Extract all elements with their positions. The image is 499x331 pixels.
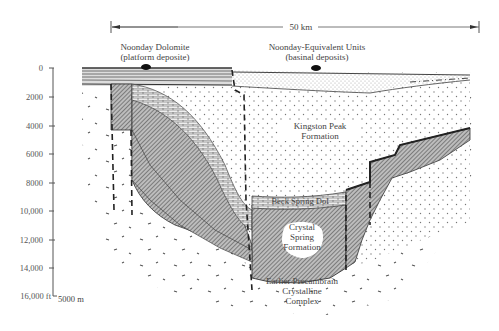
cross-section-diagram: [0, 0, 499, 331]
header-right-line1: Noonday-Equivalent Units: [262, 42, 372, 52]
depth-tick: 4000: [0, 121, 43, 131]
beck-spring-label: Beck Spring Dol: [262, 196, 338, 206]
crystal-spring-label-3: Formation: [276, 242, 328, 252]
depth-tick: 8000: [0, 178, 43, 188]
header-left-line2: (platform deposite): [105, 52, 205, 62]
noonday-marker-right: [311, 65, 321, 71]
depth-tick: 14,000: [0, 263, 43, 273]
metric-depth-label: 5000 m: [58, 294, 84, 304]
depth-tick: 2000: [0, 92, 43, 102]
header-left-line1: Noonday Dolomite: [105, 42, 205, 52]
depth-axis: [49, 68, 57, 296]
noonday-marker-left: [141, 64, 151, 70]
depth-tick: 16,000 ft: [0, 291, 51, 301]
kingston-peak-label-1: Kingston Peak: [280, 121, 360, 131]
depth-tick: 6000: [0, 149, 43, 159]
crystal-spring-label-2: Spring: [280, 232, 324, 242]
basement-label-1: Earlier Precambrain: [252, 276, 352, 286]
basement-label-2: Crystalline: [252, 286, 352, 296]
depth-tick: 0: [0, 63, 43, 73]
noonday-platform-layers: [82, 68, 232, 86]
scale-bar-label: 50 km: [281, 22, 321, 32]
kingston-peak-label-2: Formation: [280, 131, 360, 141]
depth-tick: 10,000: [0, 206, 43, 216]
depth-tick: 12,000: [0, 235, 43, 245]
header-right-line2: (basinal deposits): [262, 52, 372, 62]
crystal-spring-label-1: Crystal: [280, 222, 324, 232]
basement-label-3: Complex: [252, 296, 352, 306]
left-fault-block: [111, 84, 132, 130]
